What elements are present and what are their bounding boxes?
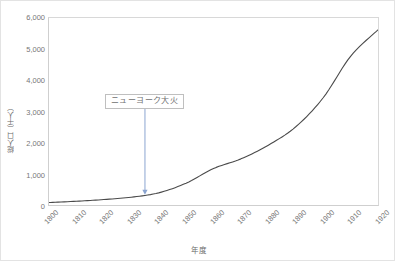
- x-axis-tick-label: 1870: [232, 208, 254, 230]
- x-axis-tick-label: 1910: [342, 208, 364, 230]
- y-axis-tick-label: 1,000: [1, 170, 45, 179]
- population-line: [49, 30, 378, 203]
- annotation-arrow: [142, 106, 147, 195]
- x-axis-tick-label: 1820: [94, 208, 116, 230]
- y-axis-tick-label: 6,000: [1, 13, 45, 22]
- x-axis-tick-label: 1920: [369, 208, 391, 230]
- x-axis-tick-label: 1880: [259, 208, 281, 230]
- x-axis-tick-label: 1840: [149, 208, 171, 230]
- y-axis-tick-label: 0: [1, 202, 45, 211]
- annotation-label-great-fire: ニューヨーク大火: [105, 94, 184, 110]
- x-axis-tick-label: 1850: [176, 208, 198, 230]
- annotation-arrow-head: [142, 190, 147, 195]
- y-axis-tick-label: 4,000: [1, 76, 45, 85]
- x-axis-tick-label: 1810: [66, 208, 88, 230]
- y-axis-tick-label: 3,000: [1, 107, 45, 116]
- plot-area: [48, 17, 379, 206]
- series-canvas: [49, 18, 378, 205]
- chart-screenshot: 総人口（千人） 01,0002,0003,0004,0005,0006,000 …: [0, 0, 395, 261]
- x-axis-tick-labels: 1800181018201830184018501860187018801890…: [48, 208, 379, 242]
- x-axis-tick-label: 1830: [121, 208, 143, 230]
- x-axis-tick-label: 1900: [314, 208, 336, 230]
- x-axis-tick-label: 1860: [204, 208, 226, 230]
- y-axis-tick-label: 5,000: [1, 44, 45, 53]
- x-axis-tick-label: 1890: [287, 208, 309, 230]
- y-axis-tick-label: 2,000: [1, 139, 45, 148]
- x-axis-title: 年度: [1, 244, 395, 255]
